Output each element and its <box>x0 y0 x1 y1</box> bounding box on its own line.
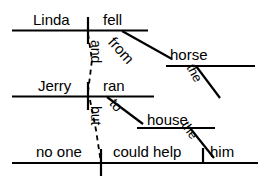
word-him: him <box>210 144 234 159</box>
sentence-diagram: Linda fell horse Jerry ran house no one … <box>0 0 268 179</box>
word-jerry: Jerry <box>38 78 71 93</box>
word-no-one: no one <box>36 144 82 159</box>
word-linda: Linda <box>33 12 70 27</box>
word-ran: ran <box>103 78 125 93</box>
word-and: and <box>89 40 103 63</box>
word-fell: fell <box>103 12 122 27</box>
word-horse: horse <box>170 47 208 62</box>
word-but: but <box>89 106 103 125</box>
word-could-help: could help <box>113 144 181 159</box>
